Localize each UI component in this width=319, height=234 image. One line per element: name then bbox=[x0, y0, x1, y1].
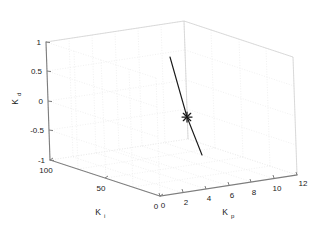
x-tick-label: 6 bbox=[230, 191, 235, 200]
x-tick-label: 12 bbox=[299, 179, 308, 188]
x-tick-label: 2 bbox=[184, 198, 189, 207]
x-axis-label-subscript: p bbox=[231, 213, 235, 219]
data-series-selected-point[interactable] bbox=[182, 112, 192, 122]
z-tick-label: -0.5 bbox=[30, 126, 44, 135]
plot-svg: 1 0.5 0 -0.5 -1 100 50 0 0 2 4 6 8 10 12… bbox=[0, 0, 319, 234]
x-tick-label: 4 bbox=[207, 194, 212, 203]
z-axis-label-subscript: d bbox=[16, 93, 22, 96]
z-axis-label: K d bbox=[10, 93, 22, 105]
y-axis-label-base: K bbox=[95, 207, 101, 217]
x-tick-labels: 0 2 4 6 8 10 12 bbox=[161, 179, 308, 210]
star-marker-icon[interactable] bbox=[182, 112, 192, 122]
grid-lines bbox=[46, 21, 297, 196]
z-tick-label: -1 bbox=[38, 156, 46, 165]
x-tick-label: 0 bbox=[161, 201, 166, 210]
y-tick-label: 100 bbox=[39, 166, 53, 175]
z-tick-label: 0.5 bbox=[31, 67, 43, 76]
y-axis-label-subscript: i bbox=[104, 213, 105, 219]
z-tick-label: 0 bbox=[39, 97, 44, 106]
y-tick-labels: 100 50 0 bbox=[39, 166, 158, 211]
box-edges bbox=[46, 21, 297, 175]
y-axis-label: K i bbox=[95, 207, 105, 219]
z-axis-label-base: K bbox=[10, 99, 20, 105]
x-axis-label-base: K bbox=[222, 207, 228, 217]
x-tick-label: 10 bbox=[273, 184, 282, 193]
y-tick-label: 50 bbox=[97, 184, 106, 193]
y-tick-label: 0 bbox=[154, 202, 159, 211]
x-tick-label: 8 bbox=[252, 188, 257, 197]
z-tick-label: 1 bbox=[37, 38, 42, 47]
x-axis-label: K p bbox=[222, 207, 235, 219]
z-tick-labels: 1 0.5 0 -0.5 -1 bbox=[30, 38, 45, 165]
figure-canvas: 1 0.5 0 -0.5 -1 100 50 0 0 2 4 6 8 10 12… bbox=[0, 0, 319, 234]
